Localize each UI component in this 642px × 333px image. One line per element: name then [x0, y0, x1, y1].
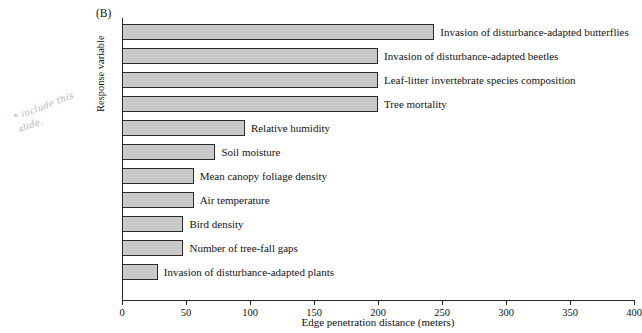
- bar-label: Mean canopy foliage density: [200, 168, 327, 184]
- bar-label: Number of tree-fall gaps: [189, 240, 297, 256]
- panel-label: (B): [96, 7, 111, 19]
- bar-label: Invasion of disturbance-adapted butterfl…: [440, 24, 628, 40]
- bar-label: Tree mortality: [384, 96, 447, 112]
- x-tick: [250, 300, 251, 305]
- x-tick: [314, 300, 315, 305]
- plot-area: Invasion of disturbance-adapted butterfl…: [122, 18, 634, 300]
- bar: [122, 240, 183, 256]
- x-axis-label: Edge penetration distance (meters): [122, 316, 634, 328]
- bar-label: Leaf-litter invertebrate species composi…: [384, 72, 576, 88]
- bar-label: Invasion of disturbance-adapted beetles: [384, 48, 558, 64]
- bar: [122, 120, 245, 136]
- x-tick: [186, 300, 187, 305]
- bar-label: Bird density: [189, 216, 243, 232]
- bar: [122, 168, 194, 184]
- bar-label: Soil moisture: [221, 144, 280, 160]
- bar-label: Air temperature: [200, 192, 270, 208]
- bar: [122, 96, 378, 112]
- x-tick: [122, 300, 123, 305]
- bar: [122, 72, 378, 88]
- bar: [122, 24, 434, 40]
- bar-label: Invasion of disturbance-adapted plants: [164, 264, 334, 280]
- x-tick: [634, 300, 635, 305]
- x-tick: [378, 300, 379, 305]
- bar: [122, 264, 158, 280]
- bar-label: Relative humidity: [251, 120, 330, 136]
- x-tick: [442, 300, 443, 305]
- bar: [122, 192, 194, 208]
- figure-panel-b: * include this slide. (B) Response varia…: [0, 0, 642, 333]
- x-tick: [570, 300, 571, 305]
- bar: [122, 144, 215, 160]
- y-axis-label: Response variable: [95, 35, 106, 112]
- bar: [122, 216, 183, 232]
- x-tick: [506, 300, 507, 305]
- handwritten-annotation: * include this slide.: [12, 81, 102, 136]
- bar: [122, 48, 378, 64]
